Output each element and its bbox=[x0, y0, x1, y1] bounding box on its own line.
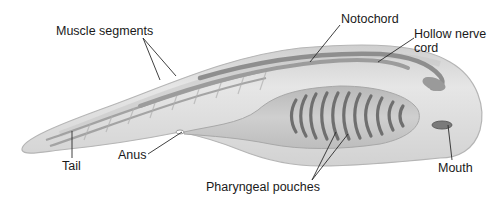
label-anus: Anus bbox=[118, 148, 147, 162]
label-muscle-segments: Muscle segments bbox=[56, 24, 153, 38]
mouth-opening bbox=[432, 121, 452, 129]
label-mouth: Mouth bbox=[438, 161, 473, 175]
label-notochord: Notochord bbox=[341, 12, 399, 26]
label-hollow-nerve-cord: Hollow nerve cord bbox=[414, 27, 494, 55]
label-tail: Tail bbox=[62, 159, 81, 173]
label-hollow-nerve-cord-line2: cord bbox=[414, 41, 438, 55]
label-hollow-nerve-cord-line1: Hollow nerve bbox=[414, 27, 486, 41]
label-pharyngeal-pouches: Pharyngeal pouches bbox=[206, 180, 320, 194]
